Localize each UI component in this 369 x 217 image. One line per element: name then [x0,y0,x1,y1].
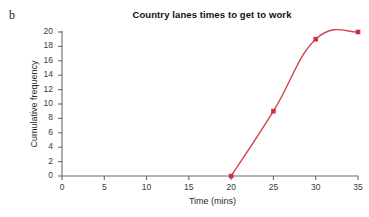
y-axis-ticks [58,32,62,176]
x-tick-label: 30 [306,183,326,192]
x-axis-title: Time (mins) [130,196,295,206]
y-tick-label: 6 [37,128,53,137]
x-tick-label: 20 [221,183,241,192]
y-axis-title: Cumulative frequency [29,34,39,174]
series-markers [229,30,360,179]
x-tick-label: 10 [137,183,157,192]
data-point-marker [313,37,318,42]
x-tick-label: 15 [179,183,199,192]
data-point-marker [356,30,361,35]
y-tick-label: 12 [37,85,53,94]
y-tick-label: 10 [37,99,53,108]
y-tick-label: 8 [37,113,53,122]
series-line [231,30,358,176]
x-tick-label: 35 [348,183,368,192]
data-point-marker [271,109,276,114]
y-tick-label: 4 [37,142,53,151]
y-tick-label: 14 [37,70,53,79]
x-tick-label: 25 [263,183,283,192]
y-tick-label: 18 [37,41,53,50]
figure-container: b Country lanes times to get to work 024… [0,0,369,217]
data-point-marker [229,174,234,179]
x-axis-ticks [62,176,358,180]
x-tick-label: 0 [52,183,72,192]
y-tick-label: 16 [37,56,53,65]
y-tick-label: 0 [37,171,53,180]
x-tick-label: 5 [94,183,114,192]
y-tick-label: 20 [37,27,53,36]
y-tick-label: 2 [37,157,53,166]
